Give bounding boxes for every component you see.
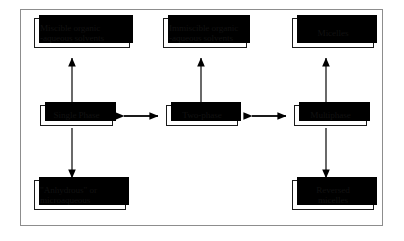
node-reversed-micelles[interactable]: Reversed micelles xyxy=(292,180,374,210)
diagram-canvas: Miscible organic -aqueous solvents Immis… xyxy=(0,0,404,241)
node-label: Reversed micelles xyxy=(293,185,373,206)
node-label: Two-phase xyxy=(167,110,237,120)
node-label: Miscible organic -aqueous solvents xyxy=(35,23,129,44)
node-label: Micelles xyxy=(293,28,373,38)
node-label: Single Phase xyxy=(41,110,112,120)
node-single-phase[interactable]: Single Phase xyxy=(40,105,113,126)
node-miscible-organic-aqueous-solvents[interactable]: Miscible organic -aqueous solvents xyxy=(34,18,130,48)
node-label: Immiscible organic -aqueous solvents xyxy=(164,23,246,44)
node-anhydrous-or-microaqueous[interactable]: "Anhydrous" or microaqueous xyxy=(34,180,126,210)
node-multiphase[interactable]: Multiphase xyxy=(294,105,367,126)
node-immiscible-organic-aqueous-solvents[interactable]: Immiscible organic -aqueous solvents xyxy=(163,18,247,48)
node-micelles[interactable]: Micelles xyxy=(292,18,374,48)
node-label: "Anhydrous" or microaqueous xyxy=(35,185,125,206)
node-label: Multiphase xyxy=(295,110,366,120)
node-two-phase[interactable]: Two-phase xyxy=(166,105,238,126)
